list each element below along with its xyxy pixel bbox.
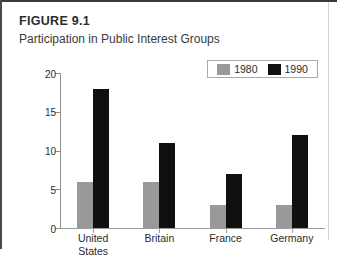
x-axis-label-germany: Germany	[259, 232, 325, 245]
y-tick-label-15: 15	[45, 107, 56, 118]
x-axis-label-france: France	[193, 232, 259, 245]
bar-france-1980	[210, 205, 226, 228]
y-tick-label-0: 0	[50, 223, 56, 234]
figure-title: Participation in Public Interest Groups	[19, 31, 319, 47]
x-axis-labels: UnitedStatesBritainFranceGermany	[60, 232, 325, 260]
figure-number: FIGURE 9.1	[19, 14, 319, 29]
x-axis-label-britain: Britain	[126, 232, 192, 245]
bar-britain-1990	[159, 143, 175, 228]
x-axis-line	[60, 228, 325, 229]
x-axis-label-line: France	[193, 232, 259, 245]
plot-area: 05101520	[60, 73, 325, 228]
x-axis-label-line: Britain	[126, 232, 192, 245]
x-axis-label-line: States	[60, 245, 126, 258]
bar-germany-1990	[292, 135, 308, 228]
y-tick-label-5: 5	[50, 184, 56, 195]
bar-germany-1980	[276, 205, 292, 228]
bars-layer	[60, 73, 325, 228]
right-rule	[328, 2, 329, 240]
figure-caption: FIGURE 9.1 Participation in Public Inter…	[19, 14, 319, 47]
x-axis-label-line: Germany	[259, 232, 325, 245]
bar-united-states-1980	[77, 182, 93, 229]
y-tick-label-20: 20	[45, 68, 56, 79]
bar-britain-1980	[143, 182, 159, 229]
x-axis-label-united-states: UnitedStates	[60, 232, 126, 258]
figure-container: FIGURE 9.1 Participation in Public Inter…	[0, 0, 337, 262]
top-rule	[0, 0, 337, 2]
left-rule	[0, 0, 2, 249]
bar-france-1990	[226, 174, 242, 228]
bar-united-states-1990	[93, 89, 109, 229]
y-tick-label-10: 10	[45, 146, 56, 157]
x-axis-label-line: United	[60, 232, 126, 245]
